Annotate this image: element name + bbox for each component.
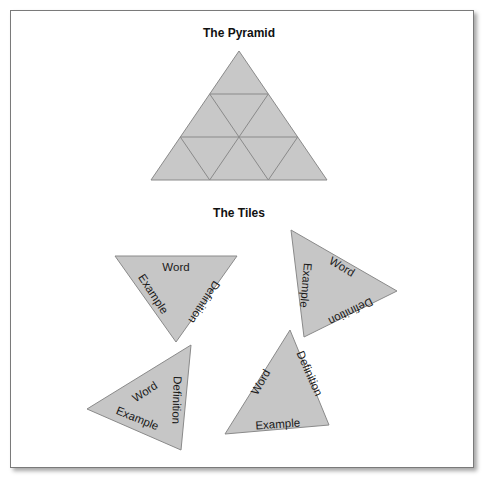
tiles-title: The Tiles xyxy=(213,206,265,220)
tile-2[interactable]: Word Example Definition xyxy=(291,230,397,337)
tile-3[interactable]: Word Example Definition xyxy=(87,345,191,450)
diagram-canvas: The Pyramid The Tiles Word Example Defin… xyxy=(0,0,487,478)
tile-4[interactable]: Word Definition Example xyxy=(225,330,329,434)
pyramid-outline xyxy=(151,51,327,180)
pyramid xyxy=(151,51,327,180)
tile-1-word: Word xyxy=(162,261,189,273)
tile-4-example: Example xyxy=(255,416,300,431)
pyramid-title: The Pyramid xyxy=(203,26,275,40)
tile-1[interactable]: Word Example Definition xyxy=(115,256,237,342)
tile-3-definition: Definition xyxy=(170,376,184,424)
